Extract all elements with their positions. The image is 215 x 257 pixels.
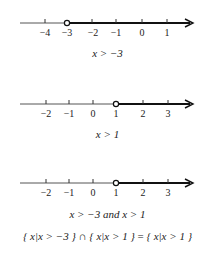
number-line-2	[20, 100, 193, 108]
caption-line-3: x > −3 and x > 1	[0, 208, 215, 220]
tick-label: 1	[155, 28, 179, 38]
tick-label: 0	[130, 28, 154, 38]
set-middle: { x|x > 1 }	[89, 230, 135, 242]
tick-label: −1	[104, 28, 128, 38]
caption-line-1: x > −3	[0, 47, 215, 59]
tick-label: −2	[34, 109, 58, 119]
number-line-3	[20, 179, 193, 187]
tick-label: −2	[81, 28, 105, 38]
number-line-1	[20, 19, 193, 27]
set-left: { x|x > −3 }	[23, 230, 76, 242]
tick-label: −1	[57, 188, 81, 198]
intersection-symbol: ∩	[79, 230, 87, 242]
tick-label: 2	[131, 109, 155, 119]
tick-label: 0	[81, 188, 105, 198]
tick-label: 3	[156, 109, 180, 119]
tick-label: −4	[33, 28, 57, 38]
tick-label: 3	[156, 188, 180, 198]
set-intersection-equation: { x|x > −3 } ∩ { x|x > 1 } = { x|x > 1 }	[0, 229, 215, 243]
tick-label: 1	[104, 109, 128, 119]
tick-label: 2	[131, 188, 155, 198]
tick-label: 0	[81, 109, 105, 119]
open-point-icon	[64, 20, 69, 25]
set-right: { x|x > 1 }	[147, 230, 193, 242]
caption-line-2: x > 1	[0, 128, 215, 140]
tick-label: −1	[57, 109, 81, 119]
open-point-icon	[113, 101, 118, 106]
equals-symbol: =	[138, 230, 144, 242]
tick-label: 1	[104, 188, 128, 198]
tick-label: −3	[55, 28, 79, 38]
tick-label: −2	[34, 188, 58, 198]
open-point-icon	[113, 180, 118, 185]
